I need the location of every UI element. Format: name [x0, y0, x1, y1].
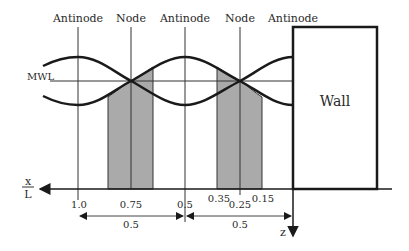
tick-0-35: 0.35	[208, 193, 230, 204]
tick-0-25: 0.25	[229, 199, 251, 210]
tick-0-15: 0.15	[252, 193, 274, 204]
axis-label-z: z	[280, 226, 286, 239]
standing-wave-diagram: Antinode Node Antinode Node Antinode MWL…	[0, 0, 409, 251]
label-antinode-2: Antinode	[159, 12, 210, 25]
tick-0-75: 0.75	[120, 199, 142, 210]
label-node-1: Node	[116, 12, 146, 25]
dimension-label-right: 0.5	[232, 219, 248, 230]
wall-label: Wall	[320, 93, 351, 109]
tick-0-5: 0.5	[177, 199, 193, 210]
tick-1-0: 1.0	[71, 199, 87, 210]
label-antinode-1: Antinode	[52, 12, 103, 25]
label-node-2: Node	[225, 12, 255, 25]
dimension-label-left: 0.5	[123, 219, 139, 230]
mwl-label: MWL	[27, 71, 55, 82]
axis-label-x: x	[25, 175, 32, 188]
label-antinode-3: Antinode	[267, 12, 318, 25]
axis-label-L: L	[24, 188, 32, 201]
